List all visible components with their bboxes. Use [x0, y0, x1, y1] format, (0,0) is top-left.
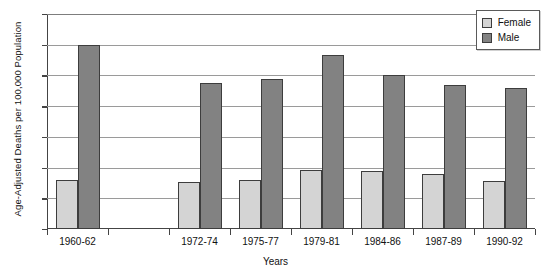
bar-female[interactable] — [178, 182, 200, 229]
bar-female[interactable] — [361, 171, 383, 229]
x-axis-tick-label: 1987-89 — [413, 236, 474, 252]
bar-group — [291, 14, 352, 229]
bar-group — [413, 14, 474, 229]
bar-female[interactable] — [56, 180, 78, 229]
x-axis-tick-mark — [108, 229, 109, 235]
x-axis-tick-label: 1990-92 — [474, 236, 535, 252]
x-axis-tick-label: 1972-74 — [169, 236, 230, 252]
x-axis-tick-mark — [413, 229, 414, 235]
legend-item-male[interactable]: Male — [482, 30, 531, 45]
chart-legend: Female Male — [476, 10, 540, 50]
x-axis-tick-mark — [474, 229, 475, 235]
x-axis-title: Years — [0, 256, 551, 267]
y-axis-title: Age-Adjusted Deaths per 100,000 Populati… — [12, 8, 26, 230]
legend-swatch-male-icon — [482, 33, 492, 43]
x-axis-ticks — [47, 229, 535, 236]
x-axis-tick-mark — [352, 229, 353, 235]
x-axis-tick-mark — [47, 229, 48, 235]
y-axis-tick-mark — [42, 198, 47, 199]
bar-group — [108, 14, 169, 229]
bar-male[interactable] — [505, 88, 527, 229]
bar-male[interactable] — [322, 55, 344, 229]
x-axis-tick-mark — [535, 229, 536, 235]
y-axis-tick-mark — [42, 168, 47, 169]
bar-female[interactable] — [483, 181, 505, 229]
y-axis-tick-mark — [42, 106, 47, 107]
y-axis-tick-mark — [42, 137, 47, 138]
x-axis-tick-label — [108, 236, 169, 252]
x-axis-tick-label: 1960-62 — [47, 236, 108, 252]
x-axis-tick-mark — [169, 229, 170, 235]
legend-item-female[interactable]: Female — [482, 15, 531, 30]
x-axis-tick-mark — [291, 229, 292, 235]
legend-swatch-female-icon — [482, 18, 492, 28]
x-axis-tick-label: 1975-77 — [230, 236, 291, 252]
y-axis-tick-mark — [42, 75, 47, 76]
bar-male[interactable] — [200, 83, 222, 229]
bar-group — [169, 14, 230, 229]
bar-group — [47, 14, 108, 229]
bar-male[interactable] — [444, 85, 466, 229]
x-axis-tick-label: 1984-86 — [352, 236, 413, 252]
legend-label-male: Male — [498, 32, 520, 43]
x-axis-labels: 1960-621972-741975-771979-811984-861987-… — [47, 236, 535, 252]
bar-female[interactable] — [422, 174, 444, 229]
bar-group — [230, 14, 291, 229]
bar-groups — [47, 14, 535, 229]
x-axis-tick-mark — [230, 229, 231, 235]
bar-male[interactable] — [383, 75, 405, 229]
bar-male[interactable] — [261, 79, 283, 229]
bar-group — [352, 14, 413, 229]
bar-chart: Age-Adjusted Deaths per 100,000 Populati… — [0, 0, 551, 276]
plot-area — [47, 14, 535, 229]
bar-male[interactable] — [78, 45, 100, 229]
x-axis-tick-label: 1979-81 — [291, 236, 352, 252]
y-axis-tick-mark — [42, 14, 47, 15]
legend-label-female: Female — [498, 17, 531, 28]
y-axis-tick-mark — [42, 45, 47, 46]
bar-female[interactable] — [300, 170, 322, 229]
bar-female[interactable] — [239, 180, 261, 229]
